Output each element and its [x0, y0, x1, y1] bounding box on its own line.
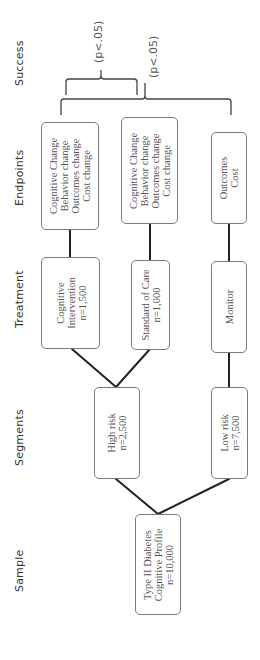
- segment-line: n=7,500: [230, 414, 241, 452]
- endpoint-line: Behavior change: [139, 132, 150, 208]
- bracket-comparison-1: [66, 70, 137, 95]
- link-sample-high-risk: [116, 479, 158, 514]
- sample-line: n=10,000: [164, 528, 175, 601]
- endpoint-line: Outcomes change: [150, 132, 161, 208]
- endpoint-line: Cost change: [81, 138, 92, 214]
- stage-label-sample: Sample: [13, 550, 26, 592]
- node-intervention-endpoints: Cognitive Change Behavior change Outcome…: [41, 122, 99, 230]
- segment-line: Low risk: [219, 414, 230, 452]
- bracket-comparison-2: [61, 83, 231, 115]
- endpoint-line: Cognitive Change: [128, 132, 139, 208]
- sample-line: Cognitive Profile: [153, 528, 164, 601]
- sample-line: Type II Diabetes: [142, 528, 153, 601]
- node-cognitive-intervention: Cognitive Intervention n=1,500: [41, 257, 100, 349]
- endpoint-line: Outcomes: [218, 157, 229, 200]
- endpoint-line: Cost change: [161, 132, 172, 208]
- node-monitor-endpoints: Outcomes Cost: [211, 132, 247, 224]
- segment-line: n=2,500: [117, 413, 128, 452]
- stage-label-treatment: Treatment: [13, 270, 26, 328]
- stage-label-endpoints: Endpoints: [13, 150, 26, 207]
- treatment-line: Standard of Care: [140, 269, 151, 340]
- pvalue-label-comparison-2: (p<.05): [147, 36, 160, 78]
- treatment-line: Monitor: [224, 290, 235, 324]
- node-standard-endpoints: Cognitive Change Behavior change Outcome…: [121, 117, 178, 224]
- endpoint-line: Outcomes change: [70, 138, 81, 214]
- link-sample-low-risk: [158, 479, 229, 514]
- treatment-line: Intervention: [65, 277, 76, 328]
- study-design-diagram: Success Endpoints Treatment Segments Sam…: [0, 0, 260, 660]
- treatment-line: Cognitive: [54, 277, 65, 328]
- node-sample: Type II Diabetes Cognitive Profile n=10,…: [135, 514, 181, 615]
- node-monitor: Monitor: [211, 261, 247, 353]
- stage-label-success: Success: [13, 40, 26, 86]
- treatment-line: n=1,500: [76, 277, 87, 328]
- pvalue-label-comparison-1: (p<.05): [92, 21, 105, 63]
- treatment-line: n=1,000: [151, 269, 162, 340]
- node-low-risk: Low risk n=7,500: [211, 387, 248, 479]
- link-high-risk-standard: [116, 349, 150, 387]
- endpoint-line: Behavior change: [59, 138, 70, 214]
- link-high-risk-intervention: [72, 349, 116, 387]
- stage-label-segments: Segments: [13, 409, 26, 466]
- endpoint-line: Cognitive Change: [48, 138, 59, 214]
- endpoint-line: Cost: [229, 157, 240, 200]
- node-standard-of-care: Standard of Care n=1,000: [131, 260, 170, 350]
- node-high-risk: High risk n=2,500: [94, 387, 140, 479]
- segment-line: High risk: [106, 413, 117, 452]
